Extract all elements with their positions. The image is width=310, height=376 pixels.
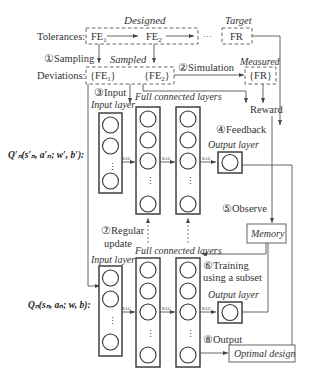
regular-update-label-1: ⑦Regular <box>101 225 145 236</box>
target-hidden1-node <box>140 153 156 169</box>
target-relu-label: ReLU <box>122 157 131 161</box>
main-relu-label: ReLU <box>162 307 171 311</box>
main-input-node <box>103 334 119 350</box>
reward-label: Reward <box>250 104 283 115</box>
main-input-node <box>103 291 119 307</box>
simulation-label: ②Simulation <box>178 62 235 73</box>
target-hidden2-node <box>180 196 196 212</box>
optimal-design-label: Optimal design <box>234 348 295 359</box>
main-hidden2-node <box>180 262 196 278</box>
main-hidden1-node <box>140 262 156 278</box>
target-output-feedback-line <box>242 165 292 345</box>
main-hidden2-node <box>180 283 196 299</box>
target-input-node <box>103 117 119 133</box>
memory-label: Memory <box>250 228 285 239</box>
target-input-layer-label: Input layer <box>90 99 135 110</box>
target-hidden2-node <box>180 132 196 148</box>
input-step-label: ③Input <box>94 87 126 98</box>
target-label: Target <box>225 15 253 26</box>
training-label-1: ⑥Training <box>203 260 250 271</box>
sampling-label: ①Sampling <box>44 53 95 64</box>
target-output-node <box>222 155 238 171</box>
main-relu-label: ReLU <box>122 307 131 311</box>
observe-label: ⑤Observe <box>222 203 267 214</box>
main-output-layer-label: Output layer <box>208 289 259 300</box>
vdots: ⋮ <box>186 176 195 186</box>
target-fc-label: Full connected layers <box>134 91 222 102</box>
vdots: ⋮ <box>108 162 117 172</box>
main-hidden1-node <box>140 304 156 320</box>
main-input-node <box>103 270 119 286</box>
target-hidden1-node <box>140 132 156 148</box>
main-hidden2-node <box>180 304 196 320</box>
vdots: ⋮ <box>186 329 195 339</box>
fe2-node: FE2 <box>146 31 162 44</box>
main-q-formula: Qₙ(sₙ, aₙ; w, b): <box>28 300 91 311</box>
vdots: ⋮ <box>146 329 155 339</box>
main-hidden1-node <box>140 283 156 299</box>
measured-label: Measured <box>239 56 281 67</box>
target-hidden1-node <box>140 111 156 127</box>
main-output-node <box>222 305 238 321</box>
target-output-layer-label: Output layer <box>208 139 259 150</box>
ellipsis: ··· <box>203 31 212 41</box>
dev-fe1: {FE1} <box>90 70 116 83</box>
dqn-diagram: Designed Target Tolerances: FE1 FE2 ··· … <box>0 0 310 376</box>
training-label-2: using a subset <box>203 272 262 283</box>
target-relu-label: ReLU <box>162 157 171 161</box>
dev-fe2: {FE2} <box>144 70 170 83</box>
dev-fr: {FR} <box>249 70 272 81</box>
vdots: ⋮ <box>146 176 155 186</box>
target-relu-label: ReLU <box>202 157 211 161</box>
output-step-label: ⑧Output <box>203 334 242 345</box>
target-hidden1-node <box>140 196 156 212</box>
regular-update-label-2: update <box>104 238 132 249</box>
main-hidden2-node <box>180 347 196 363</box>
fr-node: FR <box>230 31 243 42</box>
main-relu-label: ReLU <box>202 307 211 311</box>
target-input-node <box>103 173 119 189</box>
vdots: ⋮ <box>108 316 117 326</box>
tolerances-label: Tolerances: <box>37 31 85 42</box>
memory-out-line <box>247 243 266 254</box>
designed-label: Designed <box>123 14 166 26</box>
deviations-label: Deviations: <box>37 70 85 81</box>
target-q-formula: Q′ₙ(s′ₙ, a′ₙ; w′, b′): <box>8 150 84 161</box>
main-hidden1-node <box>140 347 156 363</box>
feedback-label: ④Feedback <box>216 124 267 135</box>
fe1-node: FE1 <box>91 31 107 44</box>
main-input-layer-label: Input layer <box>90 254 135 265</box>
target-input-node <box>103 138 119 154</box>
main-fc-label: Full connected layers <box>134 245 222 256</box>
sampled-label: Sampled <box>110 54 147 65</box>
target-hidden2-node <box>180 153 196 169</box>
target-hidden2-node <box>180 111 196 127</box>
